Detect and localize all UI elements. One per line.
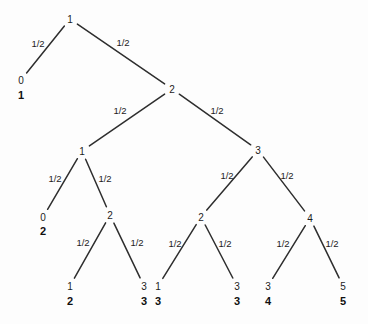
edge-probability-label: 1/2 — [325, 238, 338, 249]
edge-probability-label: 1/2 — [218, 238, 231, 249]
edge-probability-label: 1/2 — [76, 237, 89, 248]
tree-node-label: 4 — [307, 213, 313, 224]
edge-probability-label: 1/2 — [48, 173, 61, 184]
tree-node-label: 3 — [255, 145, 261, 156]
tree-edge-line — [163, 225, 196, 279]
edge-probability-label: 1/2 — [116, 37, 129, 48]
tree-edge-line — [314, 226, 339, 278]
tree-edge-line — [27, 26, 65, 73]
tree-node-label: 1 — [155, 281, 161, 292]
tree-node-label: 2 — [198, 212, 204, 223]
tree-edge-line — [48, 159, 78, 210]
tree-node-label: 1 — [67, 14, 73, 25]
leaf-bold-value: 4 — [265, 295, 272, 307]
tree-edge-line — [264, 157, 305, 211]
edge-probability-label: 1/2 — [113, 105, 126, 116]
edge-probability-label: 1/2 — [276, 238, 289, 249]
tree-edge-line — [74, 223, 105, 278]
tree-node-label: 2 — [107, 210, 113, 221]
tree-edge-line — [179, 94, 250, 145]
tree-edge-line — [205, 225, 233, 278]
leaf-bold-value: 5 — [340, 295, 346, 307]
leaf-bold-value: 1 — [18, 89, 24, 101]
tree-edge-line — [207, 157, 252, 210]
leaf-bold-value: 2 — [67, 295, 73, 307]
edge-probability-label: 1/2 — [210, 105, 223, 116]
tree-node-label: 0 — [40, 212, 46, 223]
edge-probability-label: 1/2 — [220, 170, 233, 181]
tree-node-label: 2 — [169, 84, 175, 95]
leaf-bold-value: 3 — [234, 295, 240, 307]
edge-probability-label: 1/2 — [280, 170, 293, 181]
tree-node-label: 3 — [141, 281, 147, 292]
tree-node-label: 5 — [340, 281, 346, 292]
edge-probability-label: 1/2 — [31, 38, 44, 49]
leaf-bold-value: 3 — [141, 295, 147, 307]
tree-node-label: 3 — [265, 281, 271, 292]
tree-node-label: 0 — [18, 75, 24, 86]
probability-tree-figure: 1/21/21/21/21/21/21/21/21/21/21/21/21/21… — [0, 0, 368, 324]
tree-node-label: 1 — [79, 146, 85, 157]
edge-probability-label: 1/2 — [130, 237, 143, 248]
tree-edge-line — [114, 223, 140, 278]
edge-probability-label: 1/2 — [98, 173, 111, 184]
tree-svg: 1/21/21/21/21/21/21/21/21/21/21/21/21/21… — [0, 0, 368, 324]
tree-edge-line — [89, 94, 164, 146]
tree-edge-line — [273, 226, 306, 279]
edge-probability-label: 1/2 — [168, 238, 181, 249]
tree-edge-line — [77, 24, 164, 84]
leaf-bold-value: 3 — [155, 295, 161, 307]
leaf-bold-value: 2 — [40, 225, 46, 237]
tree-node-label: 3 — [234, 281, 240, 292]
tree-node-label: 1 — [67, 281, 73, 292]
